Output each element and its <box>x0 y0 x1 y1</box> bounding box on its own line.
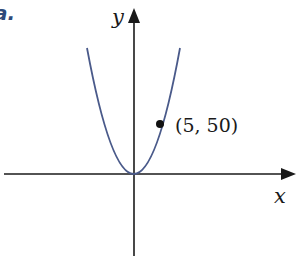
y-axis-arrow-icon <box>128 8 140 23</box>
point-label: (5, 50) <box>175 114 238 136</box>
x-axis-label: x <box>274 184 286 208</box>
parabola-diagram: a. (5, 50) y x <box>0 0 299 258</box>
x-axis-arrow-icon <box>281 168 296 180</box>
y-axis-label: y <box>111 5 125 29</box>
point-marker <box>156 120 164 128</box>
question-label: a. <box>0 1 15 25</box>
